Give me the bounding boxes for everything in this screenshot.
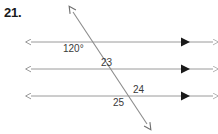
parallel-mark-icon-3 xyxy=(181,92,190,101)
parallel-mark-icon-1 xyxy=(181,38,190,47)
figure-page: 21. xyxy=(0,0,218,134)
parallel-line-2 xyxy=(31,65,213,74)
parallel-line-1 xyxy=(31,38,213,47)
transversal-line xyxy=(73,12,147,124)
angle-label-23: 23 xyxy=(101,57,112,68)
angle-label-24: 24 xyxy=(133,84,144,95)
angle-label-120: 120° xyxy=(63,43,84,54)
angle-label-25: 25 xyxy=(113,97,124,108)
parallel-mark-icon-2 xyxy=(181,65,190,74)
